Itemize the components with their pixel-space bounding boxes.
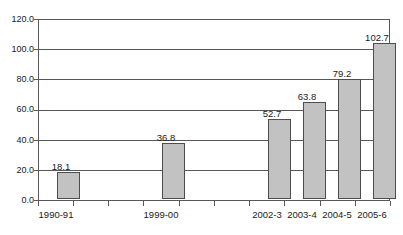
bar-value-label: 63.8 bbox=[287, 92, 327, 102]
x-tick-mark bbox=[73, 201, 74, 206]
x-tick-mark bbox=[143, 201, 144, 206]
gridline bbox=[39, 170, 389, 171]
x-tick-mark bbox=[179, 201, 180, 206]
gridline bbox=[39, 140, 389, 141]
x-tick-label-2003-4: 2003-4 bbox=[282, 209, 322, 220]
bar-value-label: 18.1 bbox=[41, 162, 81, 172]
x-tick-mark bbox=[108, 201, 109, 206]
bar-2002-3[interactable] bbox=[268, 119, 291, 199]
x-tick-label-1999-00: 1999-00 bbox=[141, 209, 181, 220]
gridline bbox=[39, 49, 389, 50]
bar-value-label: 79.2 bbox=[322, 69, 362, 79]
bar-2004-5[interactable] bbox=[338, 79, 361, 199]
bar-value-label: 36.8 bbox=[146, 133, 186, 143]
y-tick-label: 20.0 bbox=[0, 166, 34, 175]
x-tick-mark bbox=[249, 201, 250, 206]
gridline bbox=[39, 110, 389, 111]
y-tick-label: 40.0 bbox=[0, 136, 34, 145]
y-tick-label: 100.0 bbox=[0, 45, 34, 54]
bar-2003-4[interactable] bbox=[303, 102, 326, 199]
plot-area bbox=[38, 19, 390, 201]
x-tick-label-2002-3: 2002-3 bbox=[247, 209, 287, 220]
bar-2005-6[interactable] bbox=[373, 43, 396, 199]
x-tick-mark bbox=[355, 201, 356, 206]
x-tick-mark bbox=[38, 201, 39, 206]
x-tick-label-2004-5: 2004-5 bbox=[317, 209, 357, 220]
x-tick-mark bbox=[284, 201, 285, 206]
y-axis-labels: 120.0 100.0 80.0 60.0 40.0 20.0 0.0 bbox=[0, 19, 34, 201]
bar-1990-91[interactable] bbox=[57, 172, 80, 199]
x-tick-label-2005-6: 2005-6 bbox=[352, 209, 392, 220]
bar-value-label: 102.7 bbox=[357, 33, 397, 43]
y-tick-label: 80.0 bbox=[0, 75, 34, 84]
x-tick-mark bbox=[390, 201, 391, 206]
bar-1999-00[interactable] bbox=[162, 143, 185, 199]
bar-chart: 120.0 100.0 80.0 60.0 40.0 20.0 0.0 18.1… bbox=[0, 0, 403, 235]
y-tick-label: 60.0 bbox=[0, 105, 34, 114]
y-tick-label: 120.0 bbox=[0, 15, 34, 24]
x-tick-label-1990-91: 1990-91 bbox=[36, 209, 76, 220]
y-tick-label: 0.0 bbox=[0, 196, 34, 205]
gridline bbox=[39, 79, 389, 80]
x-tick-mark bbox=[320, 201, 321, 206]
bar-value-label: 52.7 bbox=[252, 109, 292, 119]
x-tick-mark bbox=[214, 201, 215, 206]
